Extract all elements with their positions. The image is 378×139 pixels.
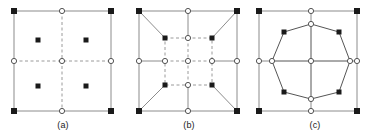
corner-node-marker: [256, 108, 262, 114]
midedge-node-marker: [11, 58, 16, 63]
interior-integration-point: [36, 38, 41, 43]
corner-node-marker: [234, 108, 240, 114]
panel-a-caption: (a): [0, 119, 126, 131]
panel-c-caption: (c): [252, 119, 378, 131]
inner-midedge-node-marker: [185, 35, 190, 40]
panel-a-diagram: [0, 0, 126, 120]
midedge-node-marker: [234, 58, 239, 63]
corner-node-marker: [11, 8, 17, 14]
corner-node-marker: [256, 8, 262, 14]
octagon-vertex-filled: [282, 30, 287, 35]
octagon-vertex-filled: [282, 90, 287, 95]
midedge-node-marker: [59, 8, 64, 13]
inner-corner-node-marker: [163, 36, 168, 41]
corner-node-marker: [234, 8, 240, 14]
inner-corner-node-marker: [163, 83, 168, 88]
interior-integration-point: [84, 84, 89, 89]
corner-diagonal: [212, 11, 237, 38]
panel-a: (a): [0, 0, 126, 139]
octagon-vertex-open: [347, 58, 352, 63]
midedge-node-marker: [185, 108, 190, 113]
octagon-vertex-open: [308, 96, 313, 101]
center-node-marker: [185, 58, 190, 63]
corner-diagonal: [139, 11, 165, 38]
corner-node-marker: [108, 8, 114, 14]
octagon-vertex-filled: [337, 30, 342, 35]
midedge-node-marker: [256, 58, 261, 63]
panel-b-diagram: [126, 0, 252, 120]
corner-node-marker: [136, 8, 142, 14]
inner-corner-node-marker: [210, 83, 215, 88]
midedge-node-marker: [108, 58, 113, 63]
panel-b-caption: (b): [126, 119, 252, 131]
octagon-vertex-open: [269, 58, 274, 63]
panel-b: (b): [126, 0, 252, 139]
inner-corner-node-marker: [210, 36, 215, 41]
corner-node-marker: [11, 108, 17, 114]
panel-c: (c): [252, 0, 378, 139]
midedge-node-marker: [59, 108, 64, 113]
midedge-node-marker: [136, 58, 141, 63]
corner-node-marker: [354, 108, 360, 114]
center-node-marker: [308, 58, 313, 63]
corner-diagonal: [139, 85, 165, 111]
figure-container: (a): [0, 0, 378, 139]
corner-diagonal: [212, 85, 237, 111]
interior-integration-point: [36, 84, 41, 89]
inner-midedge-node-marker: [185, 82, 190, 87]
inner-midedge-node-marker: [209, 58, 214, 63]
midedge-node-marker: [308, 108, 313, 113]
corner-node-marker: [136, 108, 142, 114]
interior-integration-point: [84, 38, 89, 43]
center-node-marker: [59, 58, 64, 63]
panel-c-diagram: [252, 0, 378, 120]
corner-node-marker: [354, 8, 360, 14]
corner-node-marker: [108, 108, 114, 114]
midedge-node-marker: [185, 8, 190, 13]
octagon-vertex-filled: [337, 90, 342, 95]
midedge-node-marker: [354, 58, 359, 63]
inner-midedge-node-marker: [162, 58, 167, 63]
midedge-node-marker: [308, 8, 313, 13]
octagon-vertex-open: [308, 21, 313, 26]
